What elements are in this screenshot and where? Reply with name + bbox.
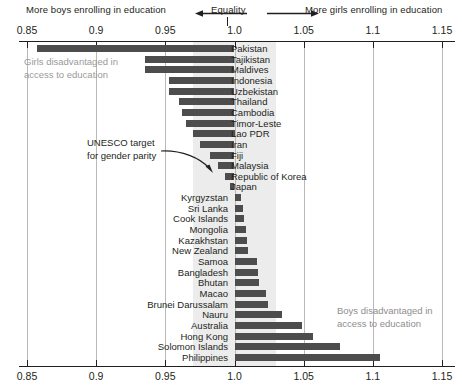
bar-category-label: Nauru bbox=[202, 310, 228, 320]
bar-category-label: Cambodia bbox=[231, 108, 274, 118]
bar bbox=[182, 109, 235, 116]
bar bbox=[37, 45, 235, 52]
bar-row: Kyrgyzstan bbox=[0, 194, 462, 205]
bar-category-label: Thailand bbox=[231, 97, 267, 107]
bar bbox=[235, 226, 246, 233]
bar bbox=[145, 56, 235, 63]
axis-tick-label: 0.9 bbox=[89, 24, 104, 36]
bar bbox=[235, 269, 259, 276]
bar-category-label: Hong Kong bbox=[180, 332, 228, 342]
header-left-text: More boys enrolling in education bbox=[26, 4, 166, 15]
bar-category-label: Solomon Islands bbox=[158, 342, 228, 352]
bar-category-label: Republic of Korea bbox=[231, 172, 307, 182]
bar-category-label: Uzbekistan bbox=[231, 87, 278, 97]
bar bbox=[235, 194, 242, 201]
gender-parity-index-chart: More boys enrolling in education Equalit… bbox=[0, 0, 462, 387]
girls-note-line1: Girls disadvantaged in bbox=[24, 56, 118, 69]
axis-tick-label: 0.85 bbox=[17, 370, 37, 382]
bar-category-label: Pakistan bbox=[231, 44, 267, 54]
bar-category-label: Brunei Darussalam bbox=[147, 300, 228, 310]
axis-tick-label: 0.95 bbox=[155, 370, 175, 382]
header-right-text: More girls enrolling in education bbox=[305, 4, 442, 15]
bar-category-label: Maldives bbox=[231, 65, 269, 75]
bar-row: Solomon Islands bbox=[0, 343, 462, 354]
bar bbox=[235, 279, 260, 286]
bar-row: New Zealand bbox=[0, 247, 462, 258]
bar-category-label: Indonesia bbox=[231, 76, 272, 86]
bar bbox=[235, 290, 267, 297]
bar-row: Mongolia bbox=[0, 226, 462, 237]
boys-note-line1: Boys disadvantaged in bbox=[337, 305, 433, 318]
bar-category-label: Tajikistan bbox=[231, 55, 270, 65]
unesco-note-line2: for gender parity bbox=[87, 149, 156, 162]
boys-disadvantaged-note: Boys disadvantaged in access to educatio… bbox=[337, 305, 433, 330]
header-center-text: Equality bbox=[211, 4, 246, 15]
bar-category-label: Timor-Leste bbox=[231, 119, 281, 129]
bar bbox=[235, 258, 257, 265]
axis-tick-label: 1.15 bbox=[432, 24, 452, 36]
bar-category-label: Lao PDR bbox=[231, 129, 270, 139]
bar bbox=[235, 237, 247, 244]
bar bbox=[235, 215, 245, 222]
bar-category-label: Mongolia bbox=[189, 225, 228, 235]
bar-category-label: Australia bbox=[191, 321, 228, 331]
bar-row: Kazakhstan bbox=[0, 237, 462, 248]
bar-category-label: Samoa bbox=[198, 257, 228, 267]
bar-category-label: New Zealand bbox=[172, 246, 228, 256]
bar bbox=[179, 98, 234, 105]
boys-note-line2: access to education bbox=[337, 318, 433, 331]
axis-tick-label: 0.85 bbox=[17, 24, 37, 36]
bar-row: Bhutan bbox=[0, 279, 462, 290]
bar bbox=[145, 66, 235, 73]
girls-note-line2: access to education bbox=[24, 69, 118, 82]
bar-row: Bangladesh bbox=[0, 269, 462, 280]
girls-disadvantaged-note: Girls disadvantaged in access to educati… bbox=[24, 56, 118, 81]
axis-tick-label: 1.05 bbox=[293, 370, 313, 382]
bar-category-label: Sri Lanka bbox=[188, 204, 228, 214]
bar-category-label: Cook Islands bbox=[173, 214, 228, 224]
bar-row: Sri Lanka bbox=[0, 205, 462, 216]
bar-category-label: Iran bbox=[231, 140, 247, 150]
bar-category-label: Philippines bbox=[182, 353, 228, 363]
bar-category-label: Malaysia bbox=[231, 161, 269, 171]
bar bbox=[235, 301, 268, 308]
bar-row: Japan bbox=[0, 183, 462, 194]
bar-category-label: Macao bbox=[199, 289, 228, 299]
unesco-note-line1: UNESCO target bbox=[87, 136, 156, 149]
bar-row: Macao bbox=[0, 290, 462, 301]
axis-tick-label: 1.05 bbox=[293, 24, 313, 36]
axis-line-bottom bbox=[19, 366, 455, 367]
bar-category-label: Kazakhstan bbox=[178, 236, 228, 246]
bar bbox=[235, 247, 249, 254]
bar bbox=[169, 77, 234, 84]
bar-row: Hong Kong bbox=[0, 333, 462, 344]
bar bbox=[193, 130, 235, 137]
axis-tick-label: 1.15 bbox=[432, 370, 452, 382]
bar bbox=[235, 333, 314, 340]
axis-tick-label: 0.95 bbox=[155, 24, 175, 36]
axis-tick-label: 1.1 bbox=[366, 370, 381, 382]
bar-category-label: Japan bbox=[231, 182, 257, 192]
unesco-target-note: UNESCO target for gender parity bbox=[87, 136, 156, 162]
bar-row: Samoa bbox=[0, 258, 462, 269]
bar bbox=[235, 205, 243, 212]
bar-row: Cook Islands bbox=[0, 215, 462, 226]
axis-tick-label: 1.0 bbox=[227, 24, 242, 36]
bar-category-label: Fiji bbox=[231, 151, 243, 161]
bar bbox=[235, 311, 282, 318]
bar bbox=[235, 322, 303, 329]
bar-category-label: Kyrgyzstan bbox=[181, 193, 228, 203]
bar bbox=[235, 343, 340, 350]
bar-row: Philippines bbox=[0, 354, 462, 365]
bar bbox=[235, 354, 380, 361]
axis-tick-label: 1.0 bbox=[227, 370, 242, 382]
curved-arrow-icon bbox=[160, 145, 220, 177]
bar-category-label: Bhutan bbox=[198, 278, 228, 288]
axis-tick-label: 1.1 bbox=[366, 24, 381, 36]
axis-tick-label: 0.9 bbox=[89, 370, 104, 382]
bar-category-label: Bangladesh bbox=[178, 268, 228, 278]
bar bbox=[169, 88, 234, 95]
bar bbox=[186, 120, 234, 127]
